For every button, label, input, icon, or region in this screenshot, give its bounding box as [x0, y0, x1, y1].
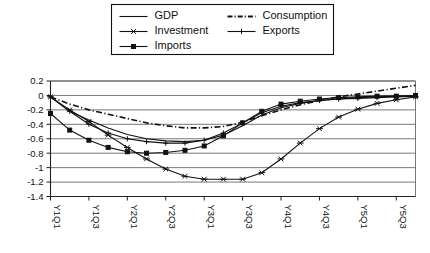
y-tick-label-0: 0.2: [30, 75, 43, 86]
x-tick-label-4: Y3Q1: [206, 205, 217, 229]
series-marker-imports-3: [106, 145, 110, 149]
series-marker-imports-15: [337, 96, 341, 100]
x-tick-label-6: Y4Q1: [283, 205, 294, 229]
impulse-response-line-chart: 0.20-0.2-0.4-0.6-0.8-1-1.2-1.4 Y1Q1Y1Q3Y…: [0, 0, 430, 253]
y-tick-label-3: -0.4: [27, 119, 43, 130]
series-marker-imports-10: [241, 121, 245, 125]
series-marker-imports-7: [183, 148, 187, 152]
y-tick-label-1: 0: [38, 90, 43, 101]
legend-label-investment: Investment: [155, 24, 209, 36]
series-marker-imports-2: [87, 138, 91, 142]
series-marker-imports-1: [68, 128, 72, 132]
series-marker-imports-4: [125, 150, 129, 154]
y-tick-label-2: -0.2: [27, 104, 43, 115]
series-marker-imports-0: [49, 111, 53, 115]
series-marker-imports-6: [164, 150, 168, 154]
legend-marker-imports-icon: [132, 45, 136, 49]
x-tick-label-7: Y4Q3: [321, 205, 332, 229]
y-tick-label-8: -1.4: [27, 191, 43, 202]
series-marker-imports-13: [298, 99, 302, 103]
y-tick-label-5: -0.8: [27, 148, 43, 159]
x-tick-label-8: Y5Q1: [359, 205, 370, 229]
series-marker-imports-16: [356, 95, 360, 99]
series-marker-imports-8: [202, 144, 206, 148]
series-marker-imports-9: [221, 134, 225, 138]
series-marker-imports-14: [317, 97, 321, 101]
y-tick-label-7: -1.2: [27, 176, 43, 187]
chart-legend: GDPConsumptionInvestmentExportsImports: [112, 5, 334, 55]
y-tick-label-6: -1: [35, 162, 43, 173]
y-tick-label-4: -0.6: [27, 133, 43, 144]
series-marker-imports-11: [260, 109, 264, 113]
legend-label-imports: Imports: [155, 39, 192, 51]
x-tick-label-9: Y5Q3: [398, 205, 409, 229]
series-marker-imports-17: [375, 94, 379, 98]
legend-label-gdp: GDP: [155, 9, 179, 21]
series-marker-imports-12: [279, 102, 283, 106]
x-tick-label-2: Y2Q1: [129, 205, 140, 229]
x-tick-label-3: Y2Q3: [167, 205, 178, 229]
x-tick-label-1: Y1Q3: [91, 205, 102, 229]
series-marker-imports-5: [145, 151, 149, 155]
legend-label-consumption: Consumption: [263, 9, 328, 21]
x-tick-label-5: Y3Q3: [244, 205, 255, 229]
x-tick-label-0: Y1Q1: [52, 205, 63, 229]
chart-container: 0.20-0.2-0.4-0.6-0.8-1-1.2-1.4 Y1Q1Y1Q3Y…: [0, 0, 430, 253]
series-marker-imports-19: [414, 93, 418, 97]
legend-label-exports: Exports: [263, 24, 301, 36]
series-marker-imports-18: [394, 94, 398, 98]
